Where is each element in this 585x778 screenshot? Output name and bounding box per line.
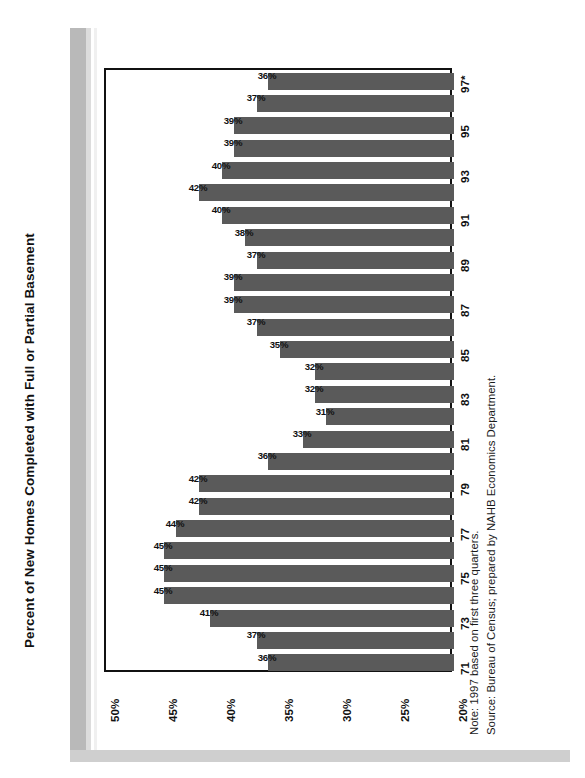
bar-value-label: 44% <box>165 518 184 529</box>
category-axis-tick: 93 <box>458 149 471 183</box>
category-axis-tick: 87 <box>458 283 471 317</box>
bar-slot: 39% <box>106 294 454 316</box>
bar[interactable]: 36% <box>268 654 454 671</box>
bar-slot: 45% <box>106 540 454 562</box>
bar[interactable]: 38% <box>245 229 454 246</box>
bar-slot: 36% <box>106 652 454 674</box>
bar-value-label: 36% <box>258 70 277 81</box>
bar[interactable]: 35% <box>280 341 454 358</box>
source-line: Source: Bureau of Census; prepared by NA… <box>483 395 500 735</box>
bar-slot: 36% <box>106 70 454 92</box>
figure-page: FIGURE 11.2 Percent of New Homes Complet… <box>0 0 585 778</box>
bar-value-label: 36% <box>258 450 277 461</box>
bar[interactable]: 36% <box>268 453 454 470</box>
bar-value-label: 39% <box>223 271 242 282</box>
bar-slot: 37% <box>106 316 454 338</box>
bar-slot: 44% <box>106 517 454 539</box>
bar-value-label: 45% <box>154 540 173 551</box>
bar[interactable]: 32% <box>315 363 454 380</box>
value-axis-tick: 45% <box>166 699 179 722</box>
bar-slot: 37% <box>106 249 454 271</box>
bar-value-label: 37% <box>247 629 266 640</box>
bar-slot: 42% <box>106 495 454 517</box>
bar-value-label: 42% <box>189 473 208 484</box>
bar[interactable]: 36% <box>268 73 454 90</box>
bar-value-label: 37% <box>247 316 266 327</box>
chart-rotated-canvas: 36%37%41%45%45%45%44%42%42%36%33%31%32%3… <box>106 70 454 674</box>
bar[interactable]: 33% <box>303 431 454 448</box>
bar[interactable]: 31% <box>326 408 454 425</box>
bar[interactable]: 42% <box>199 498 454 515</box>
bar-slot: 39% <box>106 271 454 293</box>
bar[interactable]: 45% <box>164 542 454 559</box>
bar[interactable]: 40% <box>222 207 454 224</box>
bar-value-label: 39% <box>223 294 242 305</box>
value-axis-tick: 50% <box>108 699 121 722</box>
category-axis-tick: 89 <box>458 238 471 272</box>
value-axis-tick: 35% <box>282 699 295 722</box>
page-gutter-band <box>70 28 86 750</box>
value-axis-tick: 30% <box>340 699 353 722</box>
category-axis-tick: 85 <box>458 328 471 362</box>
chart-plot-frame: 36%37%41%45%45%45%44%42%42%36%33%31%32%3… <box>104 68 452 672</box>
value-axis-tick: 25% <box>398 699 411 722</box>
bar-slot: 36% <box>106 450 454 472</box>
bar-value-label: 42% <box>189 495 208 506</box>
page-bottom-band <box>70 750 570 762</box>
bar-slot: 42% <box>106 473 454 495</box>
bar[interactable]: 37% <box>257 319 454 336</box>
bar-slot: 42% <box>106 182 454 204</box>
bar[interactable]: 44% <box>176 520 454 537</box>
bar[interactable]: 40% <box>222 162 454 179</box>
bar-slot: 40% <box>106 204 454 226</box>
category-axis-tick: 97* <box>458 59 471 93</box>
bar-value-label: 33% <box>293 428 312 439</box>
bar[interactable]: 32% <box>315 386 454 403</box>
bar-value-label: 40% <box>212 160 231 171</box>
bar-value-label: 45% <box>154 562 173 573</box>
bar-value-label: 32% <box>305 361 324 372</box>
bar-slot: 39% <box>106 115 454 137</box>
bar-value-label: 31% <box>316 406 335 417</box>
bar[interactable]: 39% <box>234 274 454 291</box>
bar[interactable]: 37% <box>257 95 454 112</box>
bar[interactable]: 39% <box>234 117 454 134</box>
bar-value-label: 42% <box>189 182 208 193</box>
bar-value-label: 39% <box>223 137 242 148</box>
category-axis-tick: 91 <box>458 193 471 227</box>
bar-slot: 39% <box>106 137 454 159</box>
bar-value-label: 41% <box>200 607 219 618</box>
page-gutter-band-light <box>86 28 91 750</box>
bar[interactable]: 42% <box>199 475 454 492</box>
bar-slot: 38% <box>106 227 454 249</box>
bar-slot: 41% <box>106 607 454 629</box>
bar-slot: 35% <box>106 338 454 360</box>
bar-slot: 32% <box>106 361 454 383</box>
figure-notes: Note: 1997 based on first three quarters… <box>466 395 508 735</box>
value-axis-tick: 40% <box>224 699 237 722</box>
bar-value-label: 39% <box>223 115 242 126</box>
bar[interactable]: 45% <box>164 565 454 582</box>
bar-value-label: 32% <box>305 383 324 394</box>
category-axis-tick: 95 <box>458 104 471 138</box>
bar[interactable]: 39% <box>234 140 454 157</box>
bar-value-label: 35% <box>270 339 289 350</box>
bar-slot: 45% <box>106 585 454 607</box>
bar-value-label: 37% <box>247 249 266 260</box>
bar-slot: 37% <box>106 629 454 651</box>
bar[interactable]: 42% <box>199 184 454 201</box>
bar-slot: 31% <box>106 406 454 428</box>
bar[interactable]: 37% <box>257 252 454 269</box>
bar-slot: 45% <box>106 562 454 584</box>
bar-series-container: 36%37%41%45%45%45%44%42%42%36%33%31%32%3… <box>106 70 454 674</box>
bar-value-label: 38% <box>235 227 254 238</box>
bar-slot: 32% <box>106 383 454 405</box>
figure-title: Percent of New Homes Completed with Full… <box>22 48 44 648</box>
bar[interactable]: 41% <box>210 610 454 627</box>
bar[interactable]: 45% <box>164 587 454 604</box>
bar[interactable]: 37% <box>257 632 454 649</box>
bar[interactable]: 39% <box>234 296 454 313</box>
bar-slot: 40% <box>106 159 454 181</box>
bar-value-label: 36% <box>258 652 277 663</box>
value-axis: 50%45%40%35%30%25%20% <box>104 676 452 728</box>
